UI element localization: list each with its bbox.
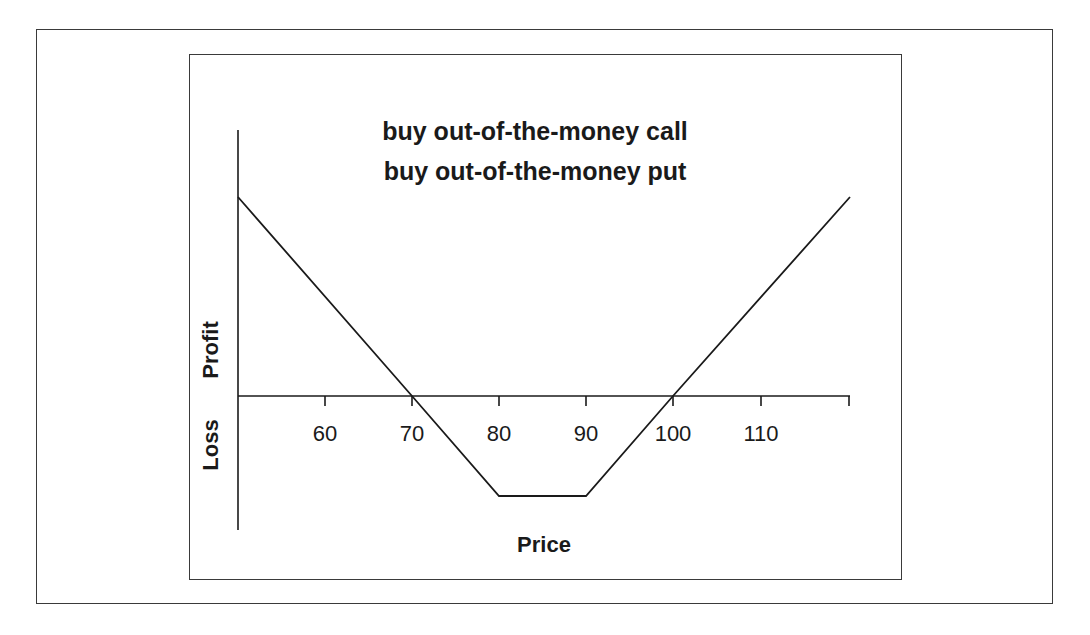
chart-title-line-1: buy out-of-the-money call (290, 116, 780, 146)
payoff-line (238, 197, 850, 496)
tick-label-80: 80 (469, 420, 529, 448)
tick-label-100: 100 (643, 420, 703, 448)
tick-label-90: 90 (556, 420, 616, 448)
tick-label-70: 70 (382, 420, 442, 448)
y-axis-label-loss: Loss (198, 400, 224, 490)
y-axis-label-profit: Profit (198, 305, 224, 395)
tick-label-60: 60 (295, 420, 355, 448)
x-axis-ticks (325, 396, 849, 406)
chart-title-line-2: buy out-of-the-money put (290, 156, 780, 186)
x-axis-label: Price (484, 530, 604, 560)
tick-label-110: 110 (731, 420, 791, 448)
